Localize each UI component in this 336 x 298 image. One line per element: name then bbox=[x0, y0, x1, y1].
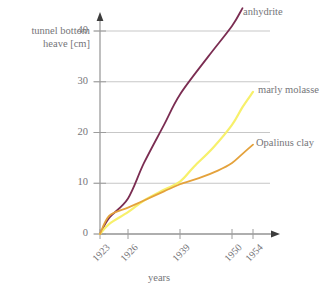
series-line-marly-molasse bbox=[100, 92, 253, 234]
y-tick-label-30: 30 bbox=[64, 75, 88, 86]
gridlines bbox=[93, 31, 270, 234]
series-label-opalinus-clay: Opalinus clay bbox=[256, 137, 314, 148]
x-axis-title: years bbox=[148, 272, 170, 283]
y-tick-label-40: 40 bbox=[64, 24, 88, 35]
y-tick-label-10: 10 bbox=[64, 176, 88, 187]
chart-container: tunnel bottom heave [cm] years 010203040… bbox=[0, 0, 336, 298]
series-label-anhydrite: anhydrite bbox=[243, 6, 283, 17]
series-lines bbox=[100, 8, 253, 234]
series-line-anhydrite bbox=[100, 8, 243, 234]
series-label-marly-molasse: marly molasse bbox=[258, 84, 319, 95]
series-line-opalinus-clay bbox=[100, 145, 253, 234]
y-tick-label-20: 20 bbox=[64, 126, 88, 137]
y-axis-title-line2: heave [cm] bbox=[6, 37, 90, 50]
y-tick-label-0: 0 bbox=[64, 227, 88, 238]
